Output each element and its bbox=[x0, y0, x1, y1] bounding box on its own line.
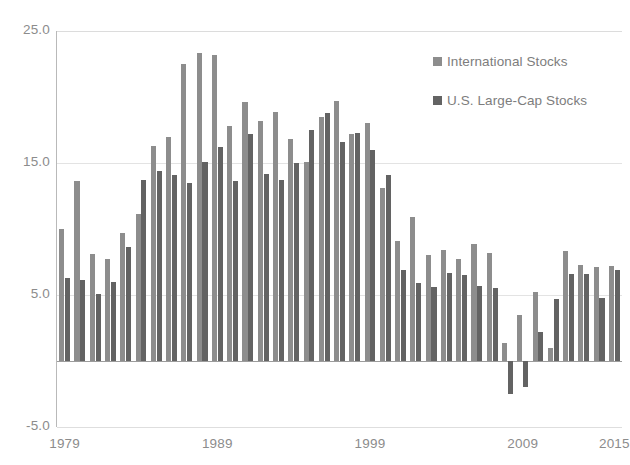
x-tick-label: 2009 bbox=[507, 436, 538, 451]
bar-chart: 25.015.05.0-5.0 19791989199920092015 Int… bbox=[0, 0, 630, 465]
x-tick-label: 1989 bbox=[202, 436, 233, 451]
x-tick-label: 1999 bbox=[355, 436, 386, 451]
legend-item: International Stocks bbox=[433, 52, 623, 71]
legend-label: U.S. Large-Cap Stocks bbox=[447, 93, 587, 108]
legend-label: International Stocks bbox=[447, 54, 568, 69]
legend-swatch-icon bbox=[433, 96, 442, 105]
legend-item: U.S. Large-Cap Stocks bbox=[433, 91, 623, 110]
x-tick-label: 2015 bbox=[599, 436, 630, 451]
x-tick-label: 1979 bbox=[49, 436, 80, 451]
chart-legend: International StocksU.S. Large-Cap Stock… bbox=[433, 52, 623, 130]
legend-swatch-icon bbox=[433, 57, 442, 66]
